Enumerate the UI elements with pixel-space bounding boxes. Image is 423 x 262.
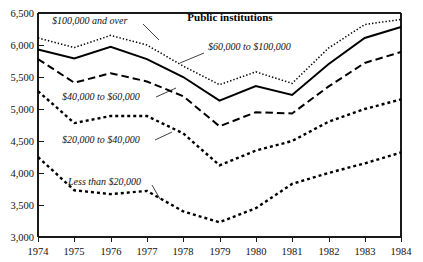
x-tick-label: 1975 [64,246,85,257]
series-annotations: $100,000 and over $60,000 to $100,000 $4… [52,15,291,187]
y-tick-label: 3,000 [10,232,34,243]
x-tick-label: 1977 [137,246,158,257]
series-line-20000-to-40000 [38,91,401,165]
x-tick-label: 1978 [173,246,194,257]
series-label-40000-to-60000: $40,000 to $60,000 [62,91,140,102]
series-line-60000-to-100000 [38,27,401,101]
x-tick-label: 1981 [282,246,303,257]
x-tick-label: 1983 [355,246,376,257]
x-tick-label: 1974 [28,246,50,257]
leader-line-100000-and-over [143,24,159,40]
x-tick-label: 1980 [246,246,267,257]
line-chart: 3,000 3,500 4,000 4,500 5,000 5,500 6,00… [0,0,423,262]
x-tick-label: 1979 [210,246,231,257]
x-tick-label: 1976 [101,246,122,257]
y-tick-label: 6,500 [10,8,34,19]
leader-line-20000-to-40000 [155,132,172,140]
y-tick-label: 6,000 [10,40,34,51]
series-label-60000-to-100000: $60,000 to $100,000 [208,41,291,52]
y-tick-label: 4,500 [10,136,34,147]
series-label-100000-and-over: $100,000 and over [52,15,127,26]
series-line-less-than-20000 [38,153,401,223]
series-label-20000-to-40000: $20,000 to $40,000 [62,134,140,145]
x-tick-label: 1982 [319,246,340,257]
y-axis: 3,000 3,500 4,000 4,500 5,000 5,500 6,00… [10,8,44,243]
chart-page: 3,000 3,500 4,000 4,500 5,000 5,500 6,00… [0,0,423,262]
leader-lines [143,24,204,199]
y-tick-label: 5,500 [10,72,34,83]
series-line-40000-to-60000 [38,52,401,126]
y-tick-label: 3,500 [10,200,34,211]
chart-title: Public institutions [187,11,273,23]
series-label-less-than-20000: Less than $20,000 [67,176,141,187]
y-tick-label: 5,000 [10,104,34,115]
x-tick-label: 1984 [391,246,413,257]
x-axis: 1974 1975 1976 1977 1978 1979 1980 1981 … [28,237,413,257]
y-tick-label: 4,000 [10,168,34,179]
leader-line-60000-to-100000 [180,53,204,63]
